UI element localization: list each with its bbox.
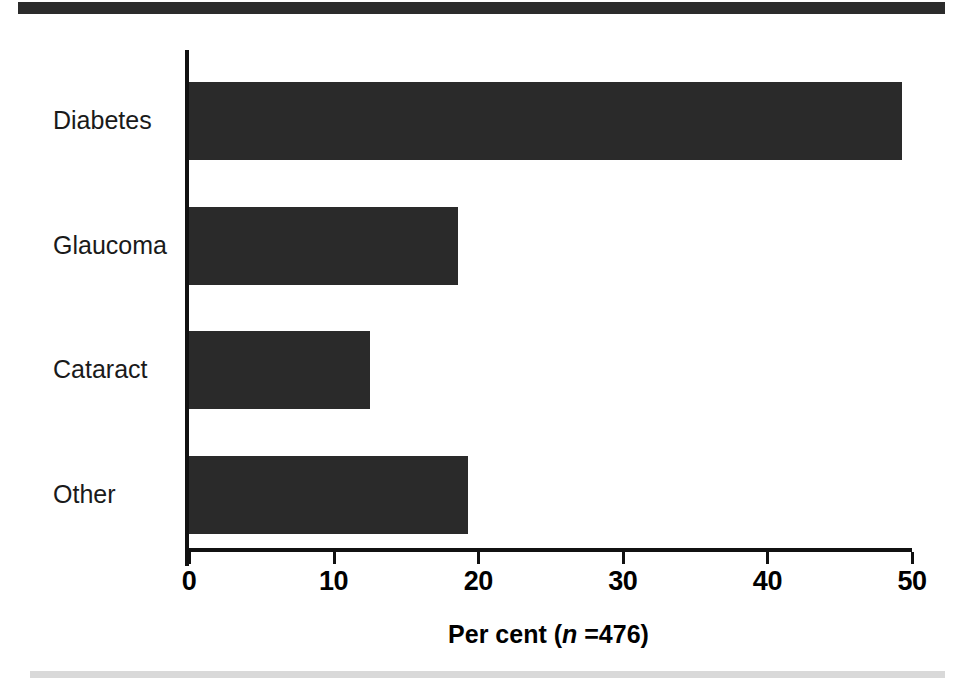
figure-page: DiabetesGlaucomaCataractOther 0102030405…	[0, 0, 965, 685]
x-tick-label-0: 0	[149, 566, 229, 597]
bar-chart: DiabetesGlaucomaCataractOther 0102030405…	[0, 0, 965, 665]
x-tick-20	[477, 552, 480, 564]
x-axis-title-italic-n: n	[562, 620, 577, 648]
x-axis-title-prefix: Per cent (	[448, 620, 562, 648]
x-tick-label-10: 10	[294, 566, 374, 597]
x-axis-line	[185, 548, 912, 552]
x-tick-10	[333, 552, 336, 564]
bottom-divider-rule	[30, 671, 945, 678]
y-axis-line	[185, 50, 189, 566]
x-tick-0	[188, 552, 191, 564]
x-axis-title: Per cent (n =476)	[185, 620, 912, 649]
bar-other	[189, 456, 468, 534]
bar-diabetes	[189, 82, 902, 160]
bar-cataract	[189, 331, 370, 409]
bar-glaucoma	[189, 207, 458, 285]
x-tick-label-40: 40	[727, 566, 807, 597]
category-label-cataract: Cataract	[53, 357, 147, 382]
x-tick-40	[766, 552, 769, 564]
x-tick-50	[911, 552, 914, 564]
x-tick-label-30: 30	[583, 566, 663, 597]
x-axis-title-suffix: =476)	[577, 620, 649, 648]
x-tick-label-50: 50	[872, 566, 952, 597]
x-tick-label-20: 20	[438, 566, 518, 597]
category-label-diabetes: Diabetes	[53, 108, 152, 133]
category-label-glaucoma: Glaucoma	[53, 233, 167, 258]
x-tick-30	[622, 552, 625, 564]
category-label-other: Other	[53, 482, 116, 507]
